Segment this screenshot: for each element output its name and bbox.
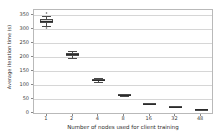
y-tick-mark (31, 112, 33, 113)
outlier-marker (46, 27, 48, 29)
y-tick-mark (31, 84, 33, 85)
y-tick-mark (31, 14, 33, 15)
y-tick-label: 100 (19, 81, 29, 86)
x-tick-label: 32 (171, 116, 177, 121)
cap-lower (94, 82, 103, 83)
x-tick-label: 48 (197, 116, 203, 121)
x-tick-mark (174, 114, 175, 116)
y-tick-label: 300 (19, 25, 29, 30)
y-tick-mark (31, 56, 33, 57)
cap-lower (68, 58, 77, 59)
median-line (169, 107, 182, 108)
box-plot-group (169, 10, 182, 114)
median-line (143, 104, 156, 105)
x-tick-label: 8 (121, 116, 124, 121)
y-tick-mark (31, 70, 33, 71)
x-tick-label: 2 (70, 116, 73, 121)
y-tick-label: 50 (23, 95, 29, 100)
cap-upper (68, 51, 77, 52)
y-tick-label: 350 (19, 12, 29, 17)
box-plot-group (143, 10, 156, 114)
y-tick-mark (31, 28, 33, 29)
x-tick-label: 4 (96, 116, 99, 121)
y-tick-mark (31, 98, 33, 99)
median-line (66, 54, 79, 55)
y-axis-label: Average iteration time (s) (6, 7, 12, 107)
box-plot-group (40, 10, 53, 114)
y-tick-label: 200 (19, 53, 29, 58)
median-line (118, 95, 131, 96)
x-tick-label: 16 (146, 116, 152, 121)
box-plot-group (92, 10, 105, 114)
x-tick-label: 1 (44, 116, 47, 121)
x-tick-mark (97, 114, 98, 116)
median-line (92, 80, 105, 81)
outlier-marker (46, 12, 48, 14)
median-line (195, 109, 208, 110)
x-axis-label: Number of nodes used for client training (33, 124, 213, 130)
x-tick-mark (149, 114, 150, 116)
box-plot-group (195, 10, 208, 114)
box-plot-group (66, 10, 79, 114)
plot-area (33, 9, 213, 114)
x-tick-mark (72, 114, 73, 116)
median-line (40, 21, 53, 22)
box-plot-group (118, 10, 131, 114)
x-tick-mark (123, 114, 124, 116)
x-tick-mark (46, 114, 47, 116)
y-tick-label: 250 (19, 39, 29, 44)
y-tick-label: 150 (19, 67, 29, 72)
boxplot-figure: 050100150200250300350 1248163248 Number … (0, 0, 221, 138)
y-tick-label: 0 (26, 109, 29, 114)
y-tick-mark (31, 42, 33, 43)
cap-upper (42, 16, 51, 17)
x-tick-mark (200, 114, 201, 116)
